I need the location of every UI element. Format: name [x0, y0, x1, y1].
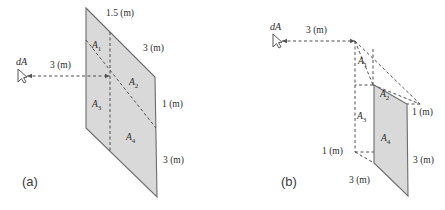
dim-mid-right-label: 1 (m) [412, 108, 433, 118]
panel-b: dA 3 (m) A1 A2 A3 A4 1 (m) 3 (m) 1 (m) 3… [222, 0, 445, 210]
dim-mid-right-label: 1 (m) [162, 100, 183, 110]
area-b1-sub: 1 [364, 61, 368, 69]
area-label-a3: A3 [357, 112, 366, 124]
dim-lower-right-label: 3 (m) [163, 156, 184, 166]
dA-label: dA [270, 22, 281, 32]
area-label-a2: A2 [380, 90, 389, 102]
area-label-a3: A3 [92, 100, 101, 112]
dA-cursor-icon [273, 34, 282, 48]
dA-cursor-icon [18, 69, 27, 83]
panel-a: 1.5 (m) 3 (m) 1 (m) 3 (m) dA 3 (m) A1 A2… [0, 0, 222, 210]
area-a2-sub: 2 [135, 82, 139, 90]
area-a4-sub: 4 [132, 137, 136, 145]
area-label-a4: A4 [126, 133, 135, 145]
distance-label: 3 (m) [50, 61, 71, 71]
dim-left-bottom-label: 1 (m) [322, 147, 343, 157]
figure-container: 1.5 (m) 3 (m) 1 (m) 3 (m) dA 3 (m) A1 A2… [0, 0, 445, 210]
area-a3-sub: 3 [98, 104, 102, 112]
dim-bottom-label: 3 (m) [349, 176, 370, 186]
area-label-a1: A1 [92, 41, 101, 53]
distance-label: 3 (m) [306, 26, 327, 36]
dA-label: dA [16, 57, 27, 67]
distance-arrow-start [282, 39, 287, 44]
area-label-a1: A1 [358, 57, 367, 69]
dim-top-label: 1.5 (m) [106, 9, 134, 19]
area-b2-sub: 2 [386, 94, 390, 102]
dim-upper-right-label: 3 (m) [143, 44, 164, 54]
area-b3-sub: 3 [363, 116, 367, 124]
distance-arrow-end [350, 39, 355, 44]
panel-a-caption: (a) [22, 175, 38, 188]
panel-b-diagram [222, 0, 445, 210]
construction-bottom-diagonal [355, 152, 374, 163]
area-label-a4: A4 [381, 134, 390, 146]
dim-lower-right-label: 3 (m) [413, 156, 434, 166]
area-label-a2: A2 [129, 78, 138, 90]
panel-b-caption: (b) [281, 175, 297, 188]
area-b4-sub: 4 [387, 138, 391, 146]
area-a1-sub: 1 [98, 45, 102, 53]
distance-arrow-start [27, 74, 32, 79]
